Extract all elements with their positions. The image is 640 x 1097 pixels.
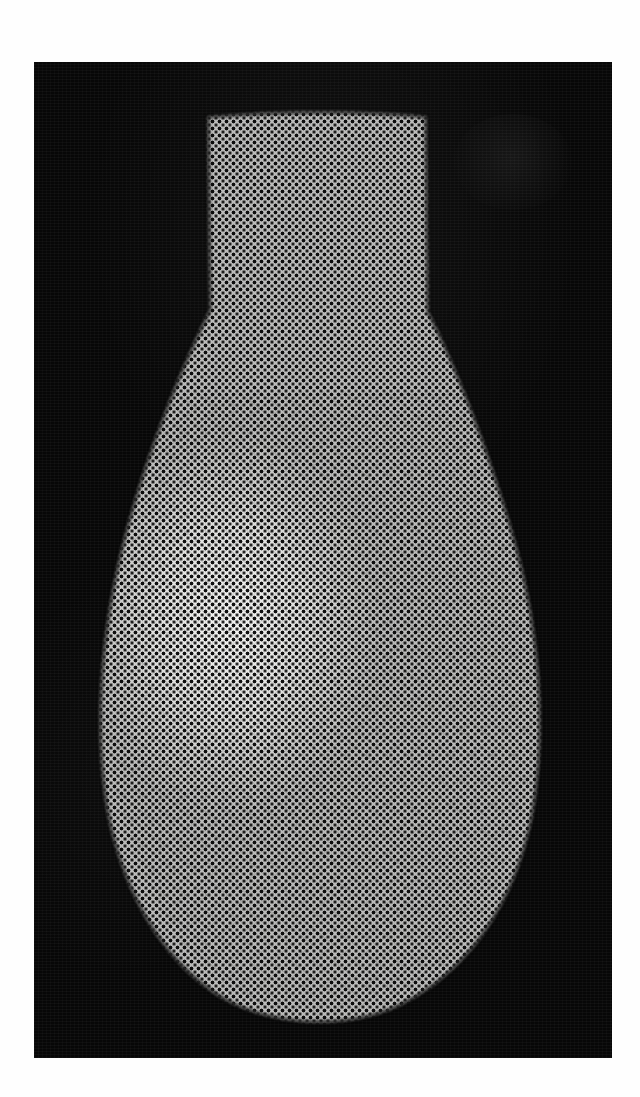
page-sheet [0,0,640,1097]
bulb-vase-subject [34,62,612,1058]
photo-plate [34,62,612,1058]
tonal-shading-layer [34,62,612,1058]
